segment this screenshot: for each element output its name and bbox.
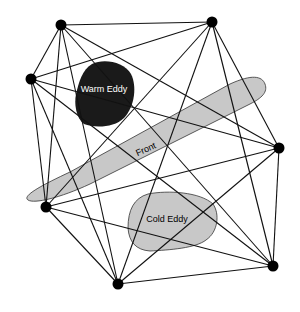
network-diagram: Warm Eddy Front Cold Eddy [0, 0, 300, 312]
edge-n5-n7 [46, 207, 118, 284]
node-n4 [274, 143, 285, 154]
edge-n6-n7 [118, 266, 273, 284]
cold-eddy-label: Cold Eddy [146, 214, 188, 224]
edge-n4-n6 [273, 148, 279, 266]
node-n1 [56, 20, 67, 31]
node-n6 [268, 261, 279, 272]
node-n2 [207, 17, 218, 28]
node-n5 [41, 202, 52, 213]
node-n7 [113, 279, 124, 290]
node-n3 [26, 74, 37, 85]
edge-n1-n2 [61, 22, 212, 25]
warm-eddy-label: Warm Eddy [81, 84, 128, 94]
